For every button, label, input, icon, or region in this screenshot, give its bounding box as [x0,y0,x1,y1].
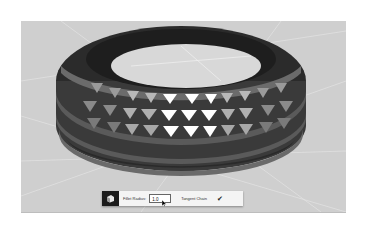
fillet-radius-label: Fillet Radius: [123,196,146,201]
fillet-radius-input[interactable]: 1.0 [149,194,171,203]
tangent-chain-checkbox[interactable]: ✔ [217,195,224,202]
checkmark-icon: ✔ [217,195,223,202]
mouse-cursor-icon [162,200,167,207]
fillet-radius-value: 1.0 [152,197,158,202]
fillet-toolbar: Fillet Radius: 1.0 Tangent Chain ✔ [102,191,243,206]
tangent-chain-label: Tangent Chain [181,196,207,201]
3d-viewport[interactable] [21,21,346,213]
ring-model-render [21,21,346,212]
fillet-tool-icon[interactable] [102,191,119,206]
